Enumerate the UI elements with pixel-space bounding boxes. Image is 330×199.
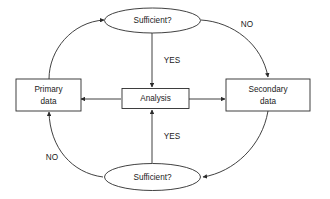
edge-top-decision-to-secondary [201,20,268,77]
node-top-decision-label: Sufficient? [133,16,172,25]
edge-label-top-no: NO [241,20,253,29]
edge-label-bottom-yes: YES [164,132,181,141]
edge-label-bottom-no: NO [46,153,58,162]
edge-secondary-to-bottom-decision [203,111,268,177]
node-primary-data-label-line2: data [41,97,57,106]
node-secondary-data[interactable] [226,79,310,111]
edge-bottom-decision-to-primary [49,112,103,177]
node-analysis-label: Analysis [140,94,171,103]
node-bottom-decision-label: Sufficient? [133,173,172,182]
diagram-canvas: Sufficient? Sufficient? Primary data Sec… [0,0,330,199]
edge-primary-to-top-decision [49,20,104,79]
node-primary-data-label-line1: Primary [34,85,63,94]
node-secondary-data-label-line1: Secondary [248,85,288,94]
flowchart-diagram: Sufficient? Sufficient? Primary data Sec… [0,0,330,199]
edge-label-top-yes: YES [164,56,181,65]
node-primary-data[interactable] [16,79,81,111]
node-secondary-data-label-line2: data [260,97,276,106]
